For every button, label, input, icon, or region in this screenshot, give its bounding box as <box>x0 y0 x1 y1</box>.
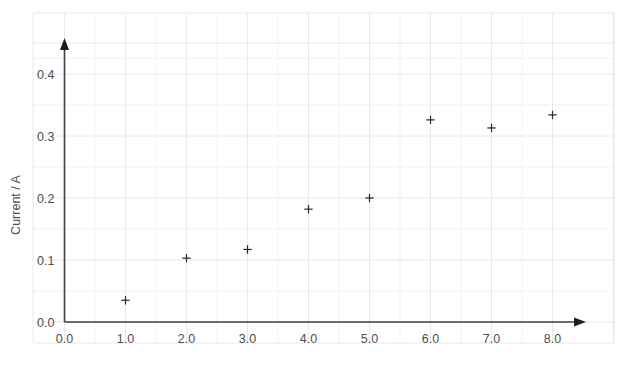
scatter-chart: 0.00.10.20.30.4 0.01.02.03.04.05.06.07.0… <box>0 0 634 365</box>
x-tick-label: 1.0 <box>117 332 134 346</box>
y-tick-label: 0.2 <box>37 192 54 206</box>
x-tick-label: 3.0 <box>239 332 256 346</box>
y-tick-label: 0.3 <box>37 130 54 144</box>
y-tick-label: 0.4 <box>37 68 54 82</box>
x-tick-labels: 0.01.02.03.04.05.06.07.08.0 <box>56 332 561 346</box>
x-tick-label: 7.0 <box>483 332 500 346</box>
x-tick-label: 2.0 <box>178 332 195 346</box>
y-axis-title: Current / A <box>9 174 23 234</box>
y-tick-label: 0.0 <box>37 316 54 330</box>
x-tick-label: 4.0 <box>300 332 317 346</box>
x-tick-label: 6.0 <box>422 332 439 346</box>
x-tick-label: 0.0 <box>56 332 73 346</box>
x-tick-label: 8.0 <box>544 332 561 346</box>
chart-canvas: 0.00.10.20.30.4 0.01.02.03.04.05.06.07.0… <box>0 0 634 365</box>
x-tick-label: 5.0 <box>361 332 378 346</box>
y-tick-label: 0.1 <box>37 254 54 268</box>
